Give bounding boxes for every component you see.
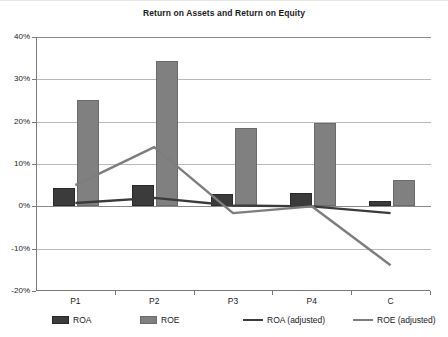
legend-swatch-line: [353, 319, 373, 321]
legend-swatch-box: [140, 316, 157, 324]
y-axis-tick-label: 40%: [0, 33, 30, 41]
x-axis-tick-label-c: C: [361, 296, 421, 306]
y-axis-tick-label: 20%: [0, 118, 30, 126]
line-roa-adjusted: [75, 198, 390, 213]
y-axis-tick-label: 30%: [0, 75, 30, 83]
chart-container: Return on Assets and Return on Equity 40…: [0, 0, 448, 337]
legend-label: ROE: [161, 315, 179, 325]
legend-item-roe[interactable]: ROE: [140, 313, 179, 327]
x-axis-tick-label-p2: P2: [124, 296, 184, 306]
y-axis-tick: [32, 291, 36, 292]
y-axis-tick-label: -20%: [0, 287, 30, 295]
line-layer: [36, 37, 430, 291]
x-axis-tick-label-p4: P4: [282, 296, 342, 306]
legend-label: ROA: [73, 315, 91, 325]
y-axis: 40%30%20%10%0%-10%-20%: [0, 0, 36, 337]
y-axis-tick-label: 10%: [0, 160, 30, 168]
x-axis-tick: [351, 291, 352, 295]
chart-legend: ROAROEROA (adjusted)ROE (adjusted): [0, 313, 448, 331]
x-axis-tick: [272, 291, 273, 295]
x-axis-tick: [194, 291, 195, 295]
x-axis-tick-label-p3: P3: [203, 296, 263, 306]
legend-label: ROA (adjusted): [267, 315, 325, 325]
page-edge: [0, 0, 448, 1]
y-axis-tick-label: -10%: [0, 245, 30, 253]
legend-item-roa-adjusted[interactable]: ROA (adjusted): [243, 313, 325, 327]
x-axis-tick: [430, 291, 431, 295]
legend-swatch-line: [243, 319, 263, 321]
legend-item-roa[interactable]: ROA: [52, 313, 91, 327]
x-axis-tick: [115, 291, 116, 295]
legend-swatch-box: [52, 316, 69, 324]
legend-item-roe-adjusted[interactable]: ROE (adjusted): [353, 313, 436, 327]
y-axis-tick-label: 0%: [0, 202, 30, 210]
x-axis-tick-label-p1: P1: [45, 296, 105, 306]
chart-title: Return on Assets and Return on Equity: [0, 8, 448, 18]
legend-label: ROE (adjusted): [377, 315, 436, 325]
